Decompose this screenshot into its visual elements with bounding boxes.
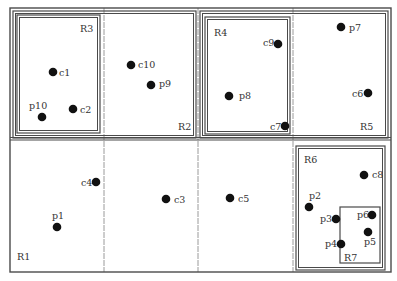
region-label: R3 [80,23,93,34]
point-dot [38,113,47,122]
point-dot [127,61,136,70]
point-label: p4 [325,238,337,249]
point-dot [364,89,373,98]
point-label: p3 [320,213,332,224]
point-label: c6 [352,88,363,99]
point-p7: p7 [337,22,361,33]
point-label: p8 [239,90,251,101]
point-label: c5 [238,193,249,204]
point-label: c3 [174,194,185,205]
point-dot [305,203,314,212]
point-label: c9 [263,37,274,48]
point-label: c2 [80,104,91,115]
region-label: R2 [178,121,191,132]
point-dot [225,92,234,101]
point-c8: c8 [360,169,384,180]
point-p1: p1 [52,210,64,231]
point-dot [337,23,346,32]
point-p4: p4 [325,238,345,249]
point-dot [226,194,235,203]
point-c4: c4 [81,177,100,188]
point-p2: p2 [305,190,321,211]
point-dot [162,195,171,204]
point-label: p6 [357,209,369,220]
point-p9: p9 [147,78,171,89]
point-dot [53,223,62,232]
point-c1: c1 [49,67,71,78]
point-c5: c5 [226,193,250,204]
point-c3: c3 [162,194,186,205]
kd-tree-partition-diagram: R1R2R3R5R4R6R7 c1c2p10c10p9c9p8c7p7c6c4p… [0,0,397,281]
point-dot [49,68,58,77]
point-label: p5 [364,236,376,247]
point-p5: p5 [364,228,376,247]
region-label: R1 [17,251,30,262]
point-c2: c2 [69,104,92,115]
point-c7: c7 [270,121,289,132]
point-c10: c10 [127,59,156,70]
point-dot [364,228,373,237]
point-label: p7 [349,22,361,33]
point-label: c10 [138,59,155,70]
point-p6: p6 [357,209,376,220]
point-label: c8 [372,169,383,180]
region-r1: R1 [17,251,30,262]
point-p10: p10 [29,100,47,121]
point-dot [147,81,156,90]
point-dot [281,122,290,131]
point-dot [337,240,346,249]
region-label: R5 [360,121,373,132]
point-label: c4 [81,177,92,188]
region-label: R6 [304,154,317,165]
point-dot [274,40,283,49]
region-label: R7 [344,252,357,263]
point-dot [332,215,341,224]
point-label: p9 [159,78,171,89]
point-dot [360,171,369,180]
point-label: p2 [309,190,321,201]
point-p8: p8 [225,90,251,101]
point-c9: c9 [263,37,282,48]
region-r4: R4 [205,17,290,134]
point-dot [92,178,101,187]
point-label: p10 [29,100,47,111]
region-label: R4 [214,27,227,38]
point-c6: c6 [352,88,372,99]
point-label: c7 [270,121,281,132]
point-p3: p3 [320,213,340,224]
point-label: p1 [52,210,64,221]
point-dot [69,105,78,114]
point-label: c1 [59,67,70,78]
